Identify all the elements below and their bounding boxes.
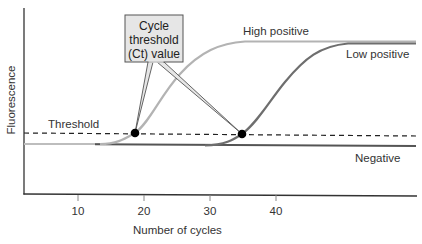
- x-axis: [23, 194, 417, 196]
- callout-line-3: (Ct) value: [128, 47, 180, 61]
- x-tick-label-40: 40: [270, 205, 283, 217]
- callout-line-2: threshold: [129, 33, 178, 47]
- threshold-line: [24, 133, 417, 136]
- negative-label: Negative: [355, 152, 400, 164]
- low-positive-label: Low positive: [346, 48, 409, 60]
- negative-curve: [95, 144, 416, 146]
- x-tick-label-30: 30: [204, 205, 217, 217]
- x-axis-title: Number of cycles: [133, 224, 222, 236]
- threshold-label: Threshold: [48, 118, 99, 130]
- callout-line-1: Cycle: [139, 19, 169, 33]
- y-axis-title: Fluorescence: [5, 65, 17, 134]
- x-ticks: [78, 195, 276, 201]
- ct-marker-low-positive: [238, 130, 247, 139]
- callout-pointer-ct-low: [157, 62, 242, 134]
- qpcr-amplification-chart: 10 20 30 40 Number of cycles Fluorescenc…: [0, 0, 422, 244]
- high-positive-label: High positive: [243, 25, 309, 37]
- x-tick-label-20: 20: [138, 205, 151, 217]
- x-tick-label-10: 10: [72, 205, 85, 217]
- ct-marker-high-positive: [131, 129, 140, 138]
